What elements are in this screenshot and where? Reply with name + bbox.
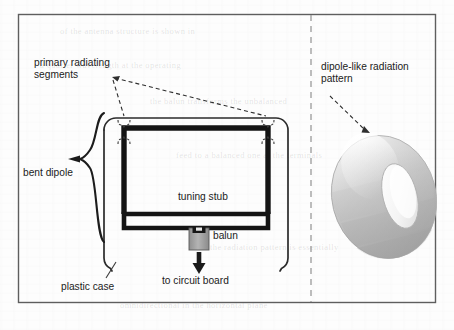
balun-notch-gap (196, 228, 202, 231)
figure-canvas: of the antenna structure is shown in a q… (0, 0, 454, 330)
feed-arrow-head (193, 263, 206, 274)
leader-radiation-pattern (330, 96, 364, 129)
leader-plastic-case (106, 262, 116, 278)
tuning-stub-conductor (124, 214, 268, 228)
leader-primary-segments-left (113, 80, 124, 116)
bent-dipole-brace-arrowhead (68, 156, 80, 163)
label-to-circuit-board: to circuit board (162, 275, 229, 287)
radiation-pattern-drawing (319, 96, 450, 270)
bent-dipole-brace (80, 113, 104, 242)
antenna-drawing (68, 76, 288, 278)
plastic-case-outline-left (104, 130, 112, 271)
dipole-right-arm (196, 128, 268, 186)
label-balun: balun (213, 230, 238, 242)
label-dipole-like-radiation-pattern: dipole-like radiation pattern (321, 61, 409, 84)
label-plastic-case: plastic case (61, 281, 114, 293)
dipole-left-arm (124, 128, 196, 186)
label-primary-radiating-segments: primary radiating segments (34, 57, 110, 80)
label-tuning-stub: tuning stub (178, 191, 228, 203)
label-bent-dipole: bent dipole (23, 167, 73, 179)
leader-primary-segments-right (115, 78, 266, 116)
